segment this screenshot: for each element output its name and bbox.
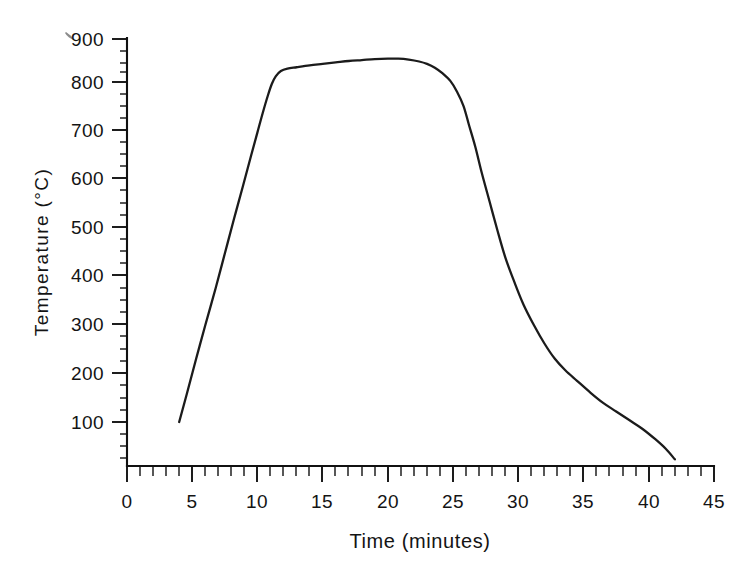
y-tick-label-300: 300 [71, 314, 104, 335]
y-tick-label-800: 800 [71, 72, 104, 93]
x-tick-label-5: 5 [187, 491, 198, 512]
y-axis: 900 800 700 600 500 400 300 200 100 Temp… [31, 29, 127, 466]
x-axis-title: Time (minutes) [349, 530, 490, 552]
x-tick-label-20: 20 [377, 491, 399, 512]
plot-area [179, 59, 675, 460]
y-tick-label-100: 100 [71, 412, 104, 433]
x-tick-label-30: 30 [507, 491, 529, 512]
chart-canvas: 900 800 700 600 500 400 300 200 100 Temp… [0, 0, 742, 568]
y-tick-label-900: 900 [71, 29, 104, 50]
y-axis-title: Temperature (°C) [31, 168, 52, 336]
chart-figure: 900 800 700 600 500 400 300 200 100 Temp… [0, 0, 742, 568]
y-tick-label-700: 700 [71, 120, 104, 141]
x-tick-label-25: 25 [442, 491, 464, 512]
x-tick-label-15: 15 [311, 491, 333, 512]
y-tick-label-600: 600 [71, 168, 104, 189]
x-tick-label-45: 45 [703, 491, 725, 512]
series-line-thermal-profile [179, 59, 675, 460]
x-tick-label-10: 10 [246, 491, 268, 512]
y-tick-label-500: 500 [71, 217, 104, 238]
x-tick-label-35: 35 [572, 491, 594, 512]
x-tick-label-40: 40 [638, 491, 660, 512]
y-tick-label-400: 400 [71, 265, 104, 286]
y-tick-label-200: 200 [71, 363, 104, 384]
x-tick-label-0: 0 [122, 491, 133, 512]
x-axis: 0 5 10 15 20 25 30 35 40 45 Time (minute… [122, 466, 725, 552]
